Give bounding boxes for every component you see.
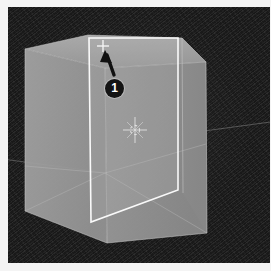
scene-graphics bbox=[8, 7, 270, 263]
screenshot-root: 1 Blender 3D Viewport Cube bbox=[0, 0, 271, 271]
grid-line-horizon-right bbox=[204, 121, 270, 131]
callout-badge-1: 1 bbox=[105, 79, 124, 98]
viewport-3d[interactable]: 1 bbox=[8, 7, 270, 263]
